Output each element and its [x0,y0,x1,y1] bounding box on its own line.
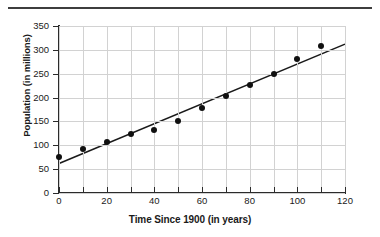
x-axis-tick-label: 40 [134,196,174,206]
y-axis-tick [53,26,59,27]
x-axis-tick-label: 100 [277,196,317,206]
x-axis-tick [59,187,60,193]
x-axis-tick [226,187,227,193]
gridline-horizontal [59,145,345,146]
y-axis-tick-label: 250 [9,69,49,79]
y-axis-tick-label: 350 [9,21,49,31]
gridline-horizontal [59,121,345,122]
x-axis-tick [250,187,251,193]
gridline-vertical [345,26,346,193]
data-point [199,105,205,111]
gridline-horizontal [59,26,345,27]
x-axis-tick [107,187,108,193]
data-point [271,71,277,77]
x-axis-tick-label: 120 [325,196,365,206]
gridline-vertical [274,26,275,193]
y-axis-tick-label: 200 [9,93,49,103]
x-axis-tick-label: 20 [87,196,127,206]
data-point [223,93,229,99]
y-axis-title: Population (in millions) [21,11,32,161]
y-axis-tick-label: 100 [9,140,49,150]
plot-area [59,26,345,193]
gridline-vertical [83,26,84,193]
gridline-vertical [154,26,155,193]
gridline-horizontal [59,98,345,99]
y-axis-tick-label: 150 [9,116,49,126]
gridline-vertical [250,26,251,193]
gridline-vertical [178,26,179,193]
data-point [318,43,324,49]
data-point [247,82,253,88]
y-axis-tick-label: 300 [9,45,49,55]
gridline-vertical [59,26,60,193]
x-axis-tick-label: 60 [182,196,222,206]
y-axis-tick [53,145,59,146]
x-axis-tick [274,187,275,193]
chart-figure: Population (in millions) Time Since 1900… [0,0,380,237]
data-point [128,131,134,137]
gridline-horizontal [59,169,345,170]
gridline-horizontal [59,74,345,75]
gridline-horizontal [59,193,345,194]
gridline-vertical [131,26,132,193]
x-axis-tick-label: 0 [39,196,79,206]
y-axis-tick [53,74,59,75]
x-axis-tick [131,187,132,193]
y-axis-tick-label: 50 [9,164,49,174]
x-axis-tick-label: 80 [230,196,270,206]
gridline-vertical [226,26,227,193]
top-horizontal-rule [8,7,372,9]
x-axis-tick [83,187,84,193]
data-point [80,146,86,152]
x-axis-tick [154,187,155,193]
data-point [56,154,62,160]
gridline-vertical [297,26,298,193]
x-axis-title: Time Since 1900 (in years) [0,214,380,225]
x-axis-tick [345,187,346,193]
gridline-vertical [321,26,322,193]
gridline-vertical [107,26,108,193]
x-axis-tick [297,187,298,193]
x-axis-tick [321,187,322,193]
y-axis-tick [53,50,59,51]
x-axis-tick [178,187,179,193]
y-axis-tick [53,193,59,194]
y-axis-tick [53,121,59,122]
gridline-horizontal [59,50,345,51]
y-axis-tick [53,169,59,170]
y-axis-tick [53,98,59,99]
x-axis-tick [202,187,203,193]
